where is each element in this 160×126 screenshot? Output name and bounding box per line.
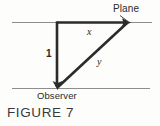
observer-label: Observer [37, 91, 77, 101]
figure-caption: FIGURE 7 [7, 105, 74, 120]
figure-container: Plane Observer 1 x y FIGURE 7 [0, 0, 160, 126]
vertical-side-label: 1 [46, 49, 52, 59]
plane-label: Plane [113, 4, 139, 14]
horizontal-side-label: x [87, 27, 91, 37]
hypotenuse-label: y [97, 57, 101, 67]
hypotenuse-segment [58, 23, 127, 87]
